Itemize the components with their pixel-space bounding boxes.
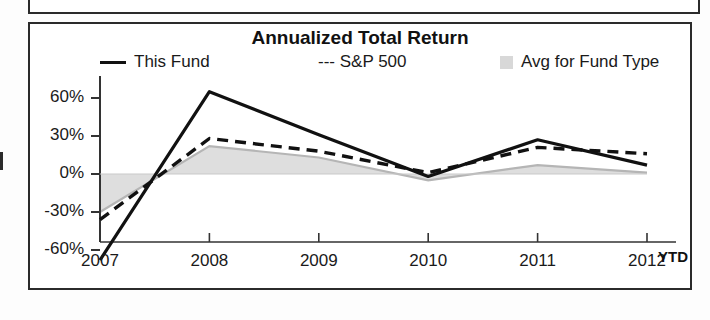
y-axis-tick-label: 0% [30, 163, 84, 183]
series-line-this-fund [100, 92, 647, 260]
y-axis-tick-label: 60% [30, 87, 84, 107]
panel-above-partial [28, 0, 700, 14]
y-axis-tick-label: -30% [30, 201, 84, 221]
x-axis-ticks [209, 233, 647, 242]
left-edge-tick-mark [0, 152, 3, 170]
annualized-total-return-chart: Annualized Total Return This Fund --- S&… [28, 22, 692, 290]
x-axis-tick-label: 2007 [55, 251, 145, 271]
x-axis-tick-label: 2009 [274, 251, 364, 271]
series-line-sp500 [100, 139, 647, 220]
x-axis-tick-label: 2010 [383, 251, 473, 271]
x-axis-ytd-note: YTD [658, 248, 688, 265]
y-axis-tick-label: 30% [30, 125, 84, 145]
y-axis-ticks [91, 98, 100, 250]
chart-page: Annualized Total Return This Fund --- S&… [0, 0, 710, 320]
plot-area: 60%30%0%-30%-60% 20072008200920102011201… [30, 24, 694, 292]
x-axis-tick-label: 2011 [493, 251, 583, 271]
x-axis-tick-label: 2008 [164, 251, 254, 271]
